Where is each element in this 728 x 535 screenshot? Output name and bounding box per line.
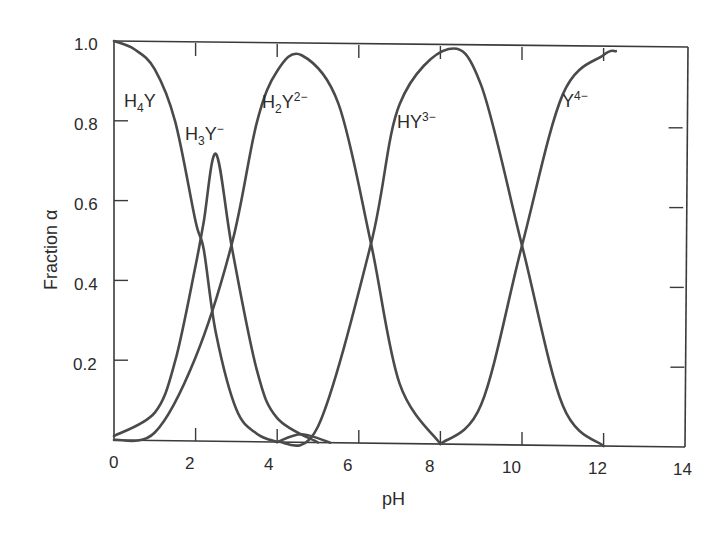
label-hy3: HY3− [397,110,436,132]
y-tick-0.8: 0.8 [74,115,98,134]
x-tick-12: 12 [588,459,607,478]
x-tick-2: 2 [185,454,194,473]
species-distribution-chart: 1.0 0.8 0.6 0.4 0.2 0 2 4 6 8 10 12 14 p… [0,0,728,535]
y-tick-0.2: 0.2 [73,355,97,374]
x-axis-label: pH [382,489,405,509]
curve-hy3- [277,48,603,446]
label-h3y: H3Y− [185,122,224,148]
label-h4y: H4Y [124,91,156,115]
label-h2y: H2Y2− [262,90,307,116]
x-tick-14: 14 [673,460,692,479]
x-tick-8: 8 [425,457,434,476]
y-tick-1.0: 1.0 [74,35,98,54]
y-tick-0.4: 0.4 [74,275,98,294]
label-y4: Y4− [562,89,588,111]
x-tick-10: 10 [502,458,521,477]
y-tick-0.6: 0.6 [74,195,98,214]
curves [114,41,616,446]
x-tick-6: 6 [343,456,352,475]
y-axis-label: Fraction α [41,210,61,290]
x-tick-0: 0 [109,453,118,472]
x-tick-4: 4 [264,455,273,474]
curve-y4- [440,51,615,444]
